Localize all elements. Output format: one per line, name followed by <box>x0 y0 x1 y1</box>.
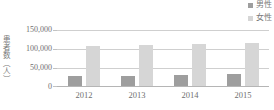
x-tick-label-2015: 2015 <box>218 90 268 100</box>
bar-female-2014[interactable] <box>192 44 206 86</box>
y-tick-label-0: 0 <box>48 83 52 91</box>
bar-male-2014[interactable] <box>174 75 188 86</box>
bar-male-2015[interactable] <box>227 74 241 86</box>
y-tick-label-150000: 150,000 <box>26 26 52 34</box>
x-tick-label-2014: 2014 <box>165 90 215 100</box>
legend-item-male: 男性 <box>248 1 272 9</box>
bar-female-2012[interactable] <box>86 46 100 86</box>
plot-area <box>57 30 269 87</box>
x-tick-label-2012: 2012 <box>59 90 109 100</box>
bar-group-2012 <box>59 30 109 86</box>
legend-label-female: 女性 <box>256 14 272 22</box>
y-tick-label-50000: 50,000 <box>30 64 52 72</box>
legend-swatch-male <box>248 3 253 8</box>
y-axis-title: 患者数（人） <box>0 30 11 88</box>
bar-male-2012[interactable] <box>68 76 82 86</box>
bar-group-2014 <box>165 30 215 86</box>
bar-female-2015[interactable] <box>245 43 259 86</box>
chart-legend: 男性 女性 <box>248 1 272 22</box>
bar-chart: 男性 女性 患者数（人） 150,000 100,000 50,000 0 <box>0 0 274 110</box>
x-tick-label-2013: 2013 <box>112 90 162 100</box>
bar-male-2013[interactable] <box>121 76 135 86</box>
y-axis-tick-labels: 150,000 100,000 50,000 0 <box>16 24 57 93</box>
legend-item-female: 女性 <box>248 14 272 22</box>
x-axis-tick-labels: 2012 2013 2014 2015 <box>57 90 269 106</box>
bar-female-2013[interactable] <box>139 45 153 86</box>
bar-groups <box>57 30 269 87</box>
legend-swatch-female <box>248 16 253 21</box>
legend-label-male: 男性 <box>256 1 272 9</box>
y-axis-title-text: 患者数（人） <box>1 35 9 83</box>
bar-group-2013 <box>112 30 162 86</box>
bar-group-2015 <box>218 30 268 86</box>
y-tick-label-100000: 100,000 <box>26 45 52 53</box>
